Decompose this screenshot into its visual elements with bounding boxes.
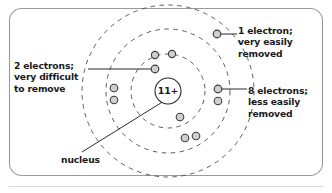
nucleus-charge-label: 11+ bbox=[154, 85, 182, 96]
electron-inner-labeled bbox=[151, 65, 159, 73]
electron-middle-5 bbox=[176, 113, 184, 121]
label-nucleus: nucleus bbox=[61, 154, 100, 165]
electron-inner-2 bbox=[168, 50, 175, 57]
electron-outer-1 bbox=[213, 30, 221, 38]
label-outer-shell-line2: very easily bbox=[238, 36, 292, 47]
label-middle-shell: 8 electrons; less easily removed bbox=[248, 85, 308, 119]
label-middle-shell-line2: less easily bbox=[248, 96, 308, 107]
atom-diagram-figure: 11+ 1 electron; very easily removed 2 el… bbox=[0, 0, 332, 193]
label-inner-shell: 2 electrons; very difficult to remove bbox=[14, 60, 78, 94]
label-inner-shell-line3: to remove bbox=[14, 83, 78, 94]
electron-middle-4 bbox=[214, 97, 222, 105]
electron-inner-1 bbox=[151, 51, 158, 58]
label-outer-shell-line1: 1 electron; bbox=[238, 25, 292, 36]
label-middle-shell-line3: removed bbox=[248, 108, 308, 119]
label-middle-shell-line1: 8 electrons; bbox=[248, 85, 308, 96]
label-nucleus-text: nucleus bbox=[61, 154, 100, 165]
electron-middle-7 bbox=[192, 132, 200, 140]
electron-middle-1 bbox=[110, 84, 118, 92]
electron-middle-2 bbox=[110, 96, 118, 104]
label-outer-shell-line3: removed bbox=[238, 48, 292, 59]
label-outer-shell: 1 electron; very easily removed bbox=[238, 25, 292, 59]
electron-middle-6 bbox=[181, 134, 189, 142]
electron-middle-3 bbox=[214, 85, 222, 93]
label-inner-shell-line2: very difficult bbox=[14, 71, 78, 82]
label-inner-shell-line1: 2 electrons; bbox=[14, 60, 78, 71]
